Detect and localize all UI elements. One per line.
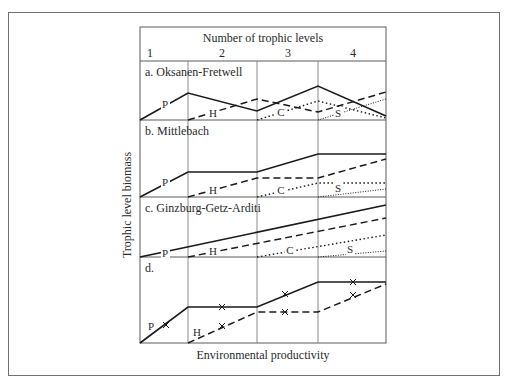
x-axis-label: Environmental productivity — [197, 348, 330, 362]
column-label-2: 2 — [219, 46, 225, 60]
header-title: Number of trophic levels — [203, 31, 324, 45]
panel-d-label-h: H — [193, 326, 201, 338]
panel-d-p-markers — [163, 279, 356, 328]
column-label-3: 3 — [285, 46, 291, 60]
panel-a-label-c: C — [277, 106, 284, 118]
panel-b-line-p — [140, 154, 386, 197]
panel-a: a. Oksanen-Fretwell P H C S — [140, 65, 386, 120]
panel-a-label-s: S — [335, 107, 341, 119]
panel-b-label-s: S — [335, 182, 341, 194]
panel-d-title: d. — [145, 261, 154, 275]
panel-b-label-c: C — [277, 184, 284, 196]
panel-c-title: c. Ginzburg-Getz-Arditi — [145, 201, 261, 215]
panel-c-label-h: H — [209, 245, 217, 257]
panel-b-title: b. Mittlebach — [145, 124, 209, 138]
panel-b-label-p: P — [162, 176, 168, 188]
panel-c: c. Ginzburg-Getz-Arditi P H C S — [140, 201, 386, 259]
panel-d-label-p: P — [148, 320, 154, 332]
panel-b: b. Mittlebach P H C S — [140, 124, 386, 197]
panel-b-line-s — [318, 189, 386, 197]
panel-c-label-p: P — [162, 247, 168, 259]
column-label-1: 1 — [147, 46, 153, 60]
x-marker-icon — [350, 292, 356, 298]
panel-a-label-p: P — [162, 98, 168, 110]
panel-c-line-c — [257, 235, 386, 257]
panel-c-label-c: C — [286, 244, 293, 256]
panel-d-h-markers — [219, 292, 356, 329]
column-label-4: 4 — [350, 46, 356, 60]
panel-a-title: a. Oksanen-Fretwell — [145, 65, 243, 79]
panel-a-label-h: H — [209, 107, 217, 119]
trophic-levels-diagram: Number of trophic levels 1 2 3 4 Trophic… — [0, 0, 518, 387]
panel-separators — [140, 61, 386, 257]
panel-b-label-h: H — [209, 184, 217, 196]
panel-c-label-s: S — [347, 243, 353, 255]
y-axis-label: Trophic level biomass — [120, 152, 134, 259]
panel-d: d. P H — [140, 261, 386, 343]
